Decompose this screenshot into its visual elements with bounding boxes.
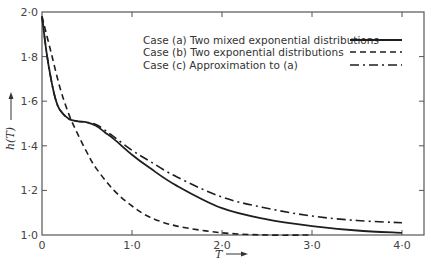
y-axis-arrow-icon bbox=[9, 92, 14, 120]
y-axis-title: h(T) bbox=[4, 127, 17, 150]
x-tick-label: 1·0 bbox=[123, 239, 141, 252]
x-tick-label: 0 bbox=[39, 239, 46, 252]
legend: Case (a) Two mixed exponential distribut… bbox=[143, 34, 402, 71]
y-tick-label: 1·0 bbox=[21, 229, 39, 242]
x-tick-label: 3·0 bbox=[303, 239, 321, 252]
y-tick-label: 1·8 bbox=[21, 51, 39, 64]
y-tick-label: 1·4 bbox=[21, 140, 39, 153]
legend-item-label: Case (c) Approximation to (a) bbox=[143, 59, 298, 71]
y-tick-label: 2·0 bbox=[21, 6, 39, 19]
legend-item-label: Case (b) Two exponential distributions bbox=[143, 46, 344, 58]
y-tick-label: 1·2 bbox=[21, 184, 39, 197]
legend-item-label: Case (a) Two mixed exponential distribut… bbox=[143, 34, 379, 46]
chart: 01·02·03·04·01·01·21·41·61·82·0 Case (a)… bbox=[0, 0, 431, 266]
x-axis-arrow-icon bbox=[226, 252, 248, 257]
y-tick-label: 1·6 bbox=[21, 95, 39, 108]
x-tick-label: 4·0 bbox=[393, 239, 411, 252]
y-axis-label: h(T) bbox=[4, 127, 17, 150]
